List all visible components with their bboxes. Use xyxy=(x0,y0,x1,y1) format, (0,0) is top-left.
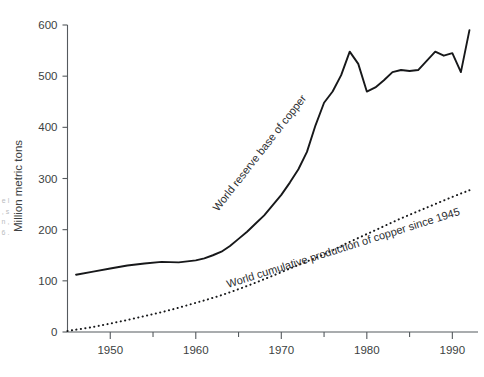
y-tick-label-600: 600 xyxy=(38,19,57,31)
x-tick-label-1980: 1980 xyxy=(354,344,380,356)
y-tick-label-500: 500 xyxy=(38,70,57,82)
y-axis: 0100200300400500600 xyxy=(38,19,67,338)
y-tick-label-100: 100 xyxy=(38,275,57,287)
y-tick-label-300: 300 xyxy=(38,173,57,185)
x-tick-label-1960: 1960 xyxy=(183,344,209,356)
data-series-group xyxy=(68,30,470,331)
y-tick-label-400: 400 xyxy=(38,121,57,133)
y-tick-label-200: 200 xyxy=(38,224,57,236)
series-label-reserve-base: World reserve base of copper xyxy=(210,92,308,213)
chart-figure: e l , s n , 6 . 0100200300400500600 1950… xyxy=(0,0,484,377)
series-line-reserve-base xyxy=(76,30,469,275)
x-tick-label-1950: 1950 xyxy=(97,344,123,356)
y-tick-label-0: 0 xyxy=(51,326,57,338)
y-axis-title: Million metric tons xyxy=(12,140,24,232)
x-tick-label-1990: 1990 xyxy=(440,344,466,356)
x-axis: 19501960197019801990 xyxy=(68,332,479,356)
line-chart: 0100200300400500600 19501960197019801990… xyxy=(0,0,484,377)
series-label-group: World reserve base of copperWorld cumula… xyxy=(210,92,461,290)
x-tick-label-1970: 1970 xyxy=(269,344,295,356)
